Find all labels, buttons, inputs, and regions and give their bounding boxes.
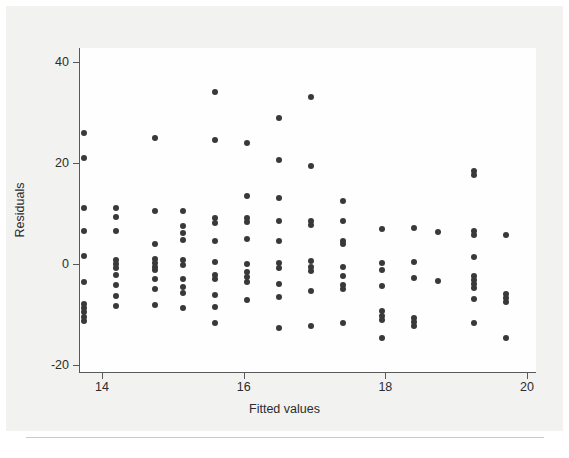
- scatter-point: [308, 323, 314, 329]
- scatter-point: [276, 294, 282, 300]
- scatter-point: [503, 232, 509, 238]
- scatter-point: [411, 275, 417, 281]
- scatter-point: [212, 320, 218, 326]
- scatter-point: [244, 140, 250, 146]
- page-divider-rule: [26, 437, 544, 438]
- scatter-point: [276, 218, 282, 224]
- y-axis-line: [79, 48, 80, 373]
- x-tick-label: 18: [378, 381, 392, 394]
- x-tick-mark: [385, 373, 386, 379]
- y-tick-mark: [73, 365, 79, 366]
- x-tick-mark: [527, 373, 528, 379]
- scatter-point: [276, 325, 282, 331]
- scatter-point: [379, 335, 385, 341]
- scatter-point: [152, 241, 158, 247]
- scatter-point: [308, 268, 314, 274]
- y-tick-mark: [73, 264, 79, 265]
- scatter-point: [308, 222, 314, 228]
- scatter-point: [411, 225, 417, 231]
- scatter-point: [379, 226, 385, 232]
- scatter-point: [340, 218, 346, 224]
- scatter-point: [212, 220, 218, 226]
- y-tick-label-text: 0: [62, 258, 69, 271]
- scatter-point: [379, 317, 385, 323]
- scatter-point: [152, 135, 158, 141]
- scatter-point: [379, 283, 385, 289]
- y-tick-mark: [73, 62, 79, 63]
- y-axis-label: Residuals: [13, 183, 27, 238]
- scatter-point: [471, 254, 477, 260]
- scatter-point: [411, 259, 417, 265]
- figure-container: 40200-20 14161820 Residuals Fitted value…: [0, 0, 569, 458]
- scatter-point: [340, 320, 346, 326]
- x-tick-label: 14: [95, 381, 109, 394]
- scatter-point: [340, 273, 346, 279]
- scatter-point: [471, 172, 477, 178]
- scatter-point: [411, 323, 417, 329]
- x-axis-line: [79, 372, 536, 373]
- scatter-point: [81, 279, 87, 285]
- y-tick-mark: [73, 163, 79, 164]
- scatter-point: [471, 232, 477, 238]
- scatter-point: [340, 241, 346, 247]
- scatter-point: [340, 264, 346, 270]
- x-axis-label: Fitted values: [0, 402, 569, 416]
- scatter-point: [244, 219, 250, 225]
- y-tick-label-text: 40: [55, 56, 69, 69]
- y-tick-label-text: 20: [55, 157, 69, 170]
- scatter-point: [308, 163, 314, 169]
- scatter-point: [340, 198, 346, 204]
- x-tick-mark: [244, 373, 245, 379]
- scatter-point: [81, 130, 87, 136]
- scatter-point: [503, 335, 509, 341]
- scatter-point: [471, 320, 477, 326]
- scatter-point: [81, 318, 87, 324]
- y-tick-label-text: -20: [51, 359, 69, 372]
- scatter-point: [244, 193, 250, 199]
- x-tick-label: 20: [520, 381, 534, 394]
- x-tick-mark: [102, 373, 103, 379]
- scatter-point: [379, 260, 385, 266]
- scatter-point: [379, 267, 385, 273]
- scatter-point: [244, 236, 250, 242]
- x-tick-label: 16: [237, 381, 251, 394]
- scatter-point: [276, 115, 282, 121]
